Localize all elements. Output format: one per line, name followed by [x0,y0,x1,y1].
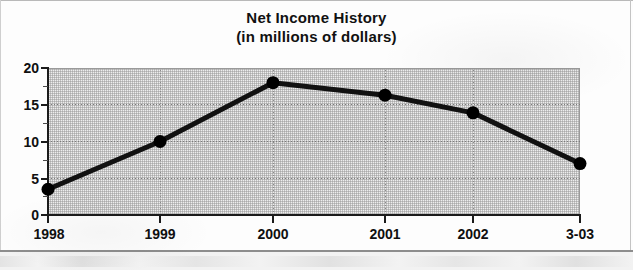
data-point-1998 [42,183,55,196]
data-point-3-03 [574,157,587,170]
data-point-2000 [267,76,280,89]
series-line-net-income [48,83,580,190]
data-point-1999 [154,135,167,148]
net-income-history-chart-figure: Net Income History (in millions of dolla… [0,0,633,270]
data-point-2001 [379,89,392,102]
data-point-2002 [467,106,480,119]
data-series-layer [0,0,633,270]
